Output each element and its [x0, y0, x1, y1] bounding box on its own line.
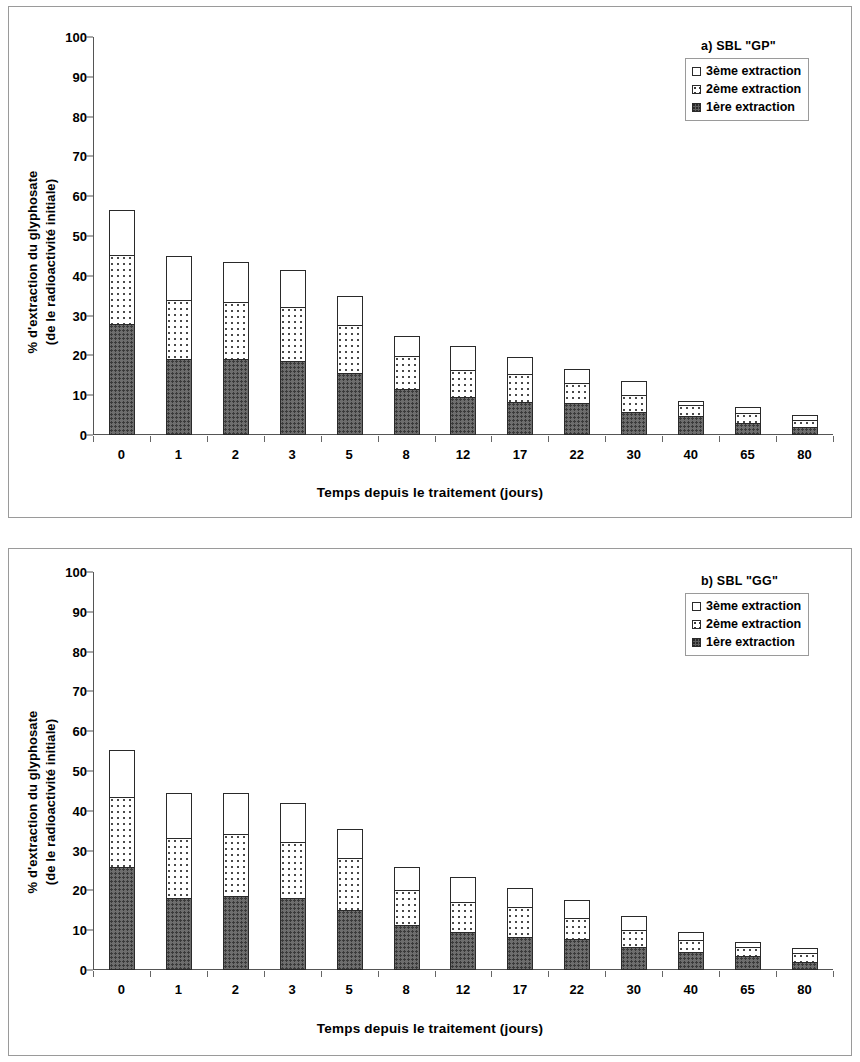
stacked-bar-a-30[interactable]: [621, 381, 647, 434]
legend-label-2eme-a: 2ème extraction: [706, 80, 801, 98]
bar-slot-b-30[interactable]: [606, 572, 663, 969]
bar-segment-s3-b-12: [450, 877, 476, 903]
stacked-bar-a-65[interactable]: [735, 407, 761, 434]
x-tick-mark-b-8: [548, 971, 549, 977]
bar-slot-b-22[interactable]: [549, 572, 606, 969]
bar-segment-s1-b-5: [337, 910, 363, 970]
bar-slot-a-30[interactable]: [606, 37, 663, 434]
y-tick-label-b-80: 80: [73, 644, 87, 659]
y-tick-label-b-60: 60: [73, 724, 87, 739]
stacked-bar-b-8[interactable]: [394, 867, 420, 969]
stacked-bar-a-1[interactable]: [166, 256, 192, 434]
stacked-bar-a-5[interactable]: [337, 296, 363, 434]
x-tick-label-a-12: 12: [435, 447, 492, 462]
y-tick-label-a-100: 100: [65, 30, 87, 45]
stacked-bar-b-17[interactable]: [507, 888, 533, 969]
x-tick-mark-b-9: [605, 971, 606, 977]
bar-segment-s1-b-80: [792, 962, 818, 970]
x-tick-label-b-65: 65: [719, 982, 776, 997]
stacked-bar-a-3[interactable]: [280, 270, 306, 434]
bar-slot-a-1[interactable]: [151, 37, 208, 434]
stacked-bar-a-40[interactable]: [678, 401, 704, 434]
bar-segment-s3-a-12: [450, 346, 476, 371]
bar-segment-s3-b-2: [223, 793, 249, 835]
stacked-bar-b-2[interactable]: [223, 793, 249, 969]
x-tick-label-b-5: 5: [321, 982, 378, 997]
x-tick-mark-b-7: [491, 971, 492, 977]
bar-slot-b-0[interactable]: [94, 572, 151, 969]
bar-segment-s3-a-22: [564, 369, 590, 385]
x-tick-label-a-30: 30: [605, 447, 662, 462]
stacked-bar-b-0[interactable]: [109, 750, 135, 969]
bar-slot-a-0[interactable]: [94, 37, 151, 434]
stacked-bar-a-17[interactable]: [507, 357, 533, 434]
bar-slot-a-22[interactable]: [549, 37, 606, 434]
bar-segment-s2-a-0: [109, 255, 135, 325]
bar-slot-b-1[interactable]: [151, 572, 208, 969]
bar-slot-a-3[interactable]: [265, 37, 322, 434]
stacked-bar-a-8[interactable]: [394, 336, 420, 434]
bar-slot-a-17[interactable]: [492, 37, 549, 434]
y-tick-label-a-30: 30: [73, 308, 87, 323]
bar-slot-a-2[interactable]: [208, 37, 265, 434]
bar-segment-s2-a-8: [394, 356, 420, 390]
legend-row-3eme-a: 3ème extraction: [692, 62, 801, 80]
bar-slot-b-3[interactable]: [265, 572, 322, 969]
legend-label-2eme-b: 2ème extraction: [706, 615, 801, 633]
x-tick-mark-b-4: [321, 971, 322, 977]
legend-b: b) SBL "GG" 3ème extraction 2ème extract…: [685, 574, 809, 656]
stacked-bar-a-0[interactable]: [109, 210, 135, 434]
y-tick-label-b-20: 20: [73, 883, 87, 898]
x-tick-label-a-2: 2: [207, 447, 264, 462]
x-tick-mark-a-0: [93, 436, 94, 442]
bar-slot-b-17[interactable]: [492, 572, 549, 969]
bar-slot-b-12[interactable]: [435, 572, 492, 969]
y-tick-label-a-70: 70: [73, 149, 87, 164]
stacked-bar-b-1[interactable]: [166, 793, 192, 969]
bar-slot-b-5[interactable]: [321, 572, 378, 969]
stacked-bar-b-22[interactable]: [564, 900, 590, 969]
x-tick-mark-b-3: [264, 971, 265, 977]
x-tick-mark-a-7: [491, 436, 492, 442]
y-tick-mark-b-80: [86, 651, 93, 652]
bar-slot-b-2[interactable]: [208, 572, 265, 969]
bar-slot-a-12[interactable]: [435, 37, 492, 434]
bar-segment-s2-b-17: [507, 907, 533, 938]
stacked-bar-a-80[interactable]: [792, 415, 818, 434]
stacked-bar-b-5[interactable]: [337, 829, 363, 969]
stacked-bar-b-3[interactable]: [280, 803, 306, 969]
legend-swatch-3eme-b: [692, 602, 701, 611]
y-tick-mark-a-70: [86, 156, 93, 157]
y-tick-label-b-50: 50: [73, 764, 87, 779]
bar-segment-s1-b-12: [450, 932, 476, 970]
x-tick-label-b-3: 3: [264, 982, 321, 997]
y-tick-label-b-90: 90: [73, 604, 87, 619]
stacked-bar-b-65[interactable]: [735, 942, 761, 969]
x-tick-label-b-0: 0: [93, 982, 150, 997]
y-tick-mark-b-60: [86, 731, 93, 732]
bar-segment-s3-b-3: [280, 803, 306, 843]
bar-segment-s1-b-22: [564, 939, 590, 970]
bar-segment-s1-b-17: [507, 937, 533, 970]
stacked-bar-b-12[interactable]: [450, 877, 476, 969]
bar-slot-a-8[interactable]: [378, 37, 435, 434]
y-tick-label-a-60: 60: [73, 189, 87, 204]
stacked-bar-a-22[interactable]: [564, 369, 590, 434]
stacked-bar-a-2[interactable]: [223, 262, 249, 434]
stacked-bar-a-12[interactable]: [450, 346, 476, 435]
legend-label-1ere-a: 1ère extraction: [706, 98, 795, 116]
legend-swatch-2eme-a: [692, 85, 701, 94]
y-tick-label-b-100: 100: [65, 565, 87, 580]
y-tick-mark-b-20: [86, 890, 93, 891]
stacked-bar-b-30[interactable]: [621, 916, 647, 969]
bar-slot-b-8[interactable]: [378, 572, 435, 969]
y-tick-mark-a-100: [86, 37, 93, 38]
stacked-bar-b-40[interactable]: [678, 932, 704, 969]
x-tick-mark-a-11: [719, 436, 720, 442]
x-tick-label-b-2: 2: [207, 982, 264, 997]
x-tick-label-b-17: 17: [491, 982, 548, 997]
stacked-bar-b-80[interactable]: [792, 948, 818, 969]
legend-label-3eme-a: 3ème extraction: [706, 62, 801, 80]
bar-slot-a-5[interactable]: [321, 37, 378, 434]
bar-segment-s1-a-80: [792, 427, 818, 435]
